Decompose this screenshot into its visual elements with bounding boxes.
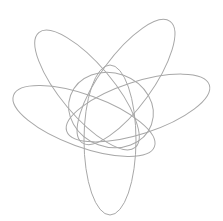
orbit-diagram <box>0 0 223 221</box>
ellipse-group <box>5 6 218 215</box>
orbit-left-wide <box>5 71 164 171</box>
